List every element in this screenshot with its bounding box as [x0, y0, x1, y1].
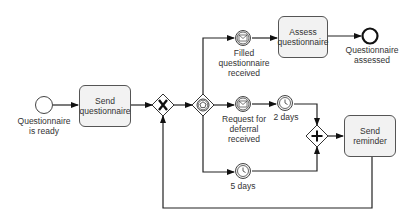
message-event-icon	[236, 31, 251, 46]
bpmn-diagram-canvas	[0, 0, 417, 224]
flow-reminder-to-xor	[163, 116, 372, 208]
start-event-label: Questionnaire is ready	[18, 116, 71, 136]
end-event-icon	[363, 29, 378, 44]
event-based-gateway-icon	[192, 94, 214, 116]
message-event-icon	[236, 97, 251, 112]
flow-5days-to-parallel	[252, 147, 317, 171]
timer-2days-label: 2 days	[273, 112, 298, 122]
task-label: Assess questionnaire	[277, 27, 328, 47]
parallel-gateway-icon	[306, 125, 328, 147]
timer-event-icon	[278, 96, 293, 111]
deferral-request-label: Request for deferral received	[222, 114, 266, 144]
task-send-reminder[interactable]: Send reminder	[344, 115, 396, 157]
task-assess-questionnaire[interactable]: Assess questionnaire	[278, 16, 328, 58]
timer-5days-label: 5 days	[230, 181, 255, 191]
task-label: Send questionnaire	[79, 96, 130, 116]
task-send-questionnaire[interactable]: Send questionnaire	[79, 85, 131, 127]
task-label: Send reminder	[353, 126, 387, 146]
start-event-icon	[36, 97, 53, 114]
exclusive-gateway-icon	[152, 94, 174, 116]
end-event-label: Questionnaire assessed	[346, 45, 399, 65]
timer-event-icon	[236, 164, 251, 179]
filled-questionnaire-label: Filled questionnaire received	[218, 48, 269, 78]
